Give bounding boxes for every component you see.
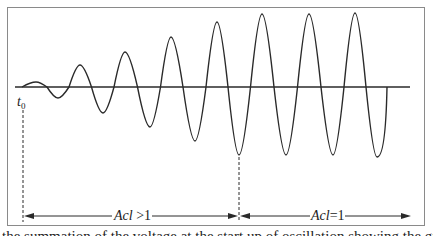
region-2-label: Acl=1 <box>310 208 345 223</box>
region-1-label: Acl >1 <box>113 208 151 223</box>
figure-frame <box>8 8 425 226</box>
arrowhead-right-icon <box>401 213 411 219</box>
region-gain-greater-than-one: Acl >1 <box>24 208 238 223</box>
oscillation-waveform <box>22 13 387 157</box>
arrowhead-left-icon <box>24 213 34 219</box>
oscillator-startup-diagram: t0 Acl >1 Acl=1 <box>0 0 433 236</box>
region-gain-equal-to-one: Acl=1 <box>240 208 411 223</box>
figure-caption: the summation of the voltage at the star… <box>2 227 433 236</box>
t0-label: t0 <box>17 94 26 111</box>
arrowhead-right-icon <box>228 213 238 219</box>
